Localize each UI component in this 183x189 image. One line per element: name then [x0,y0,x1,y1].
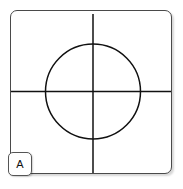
panel-label-badge: A [8,152,32,176]
panel-label-text: A [16,159,23,170]
figure-panel: A [0,0,183,189]
panel-frame [10,10,172,174]
